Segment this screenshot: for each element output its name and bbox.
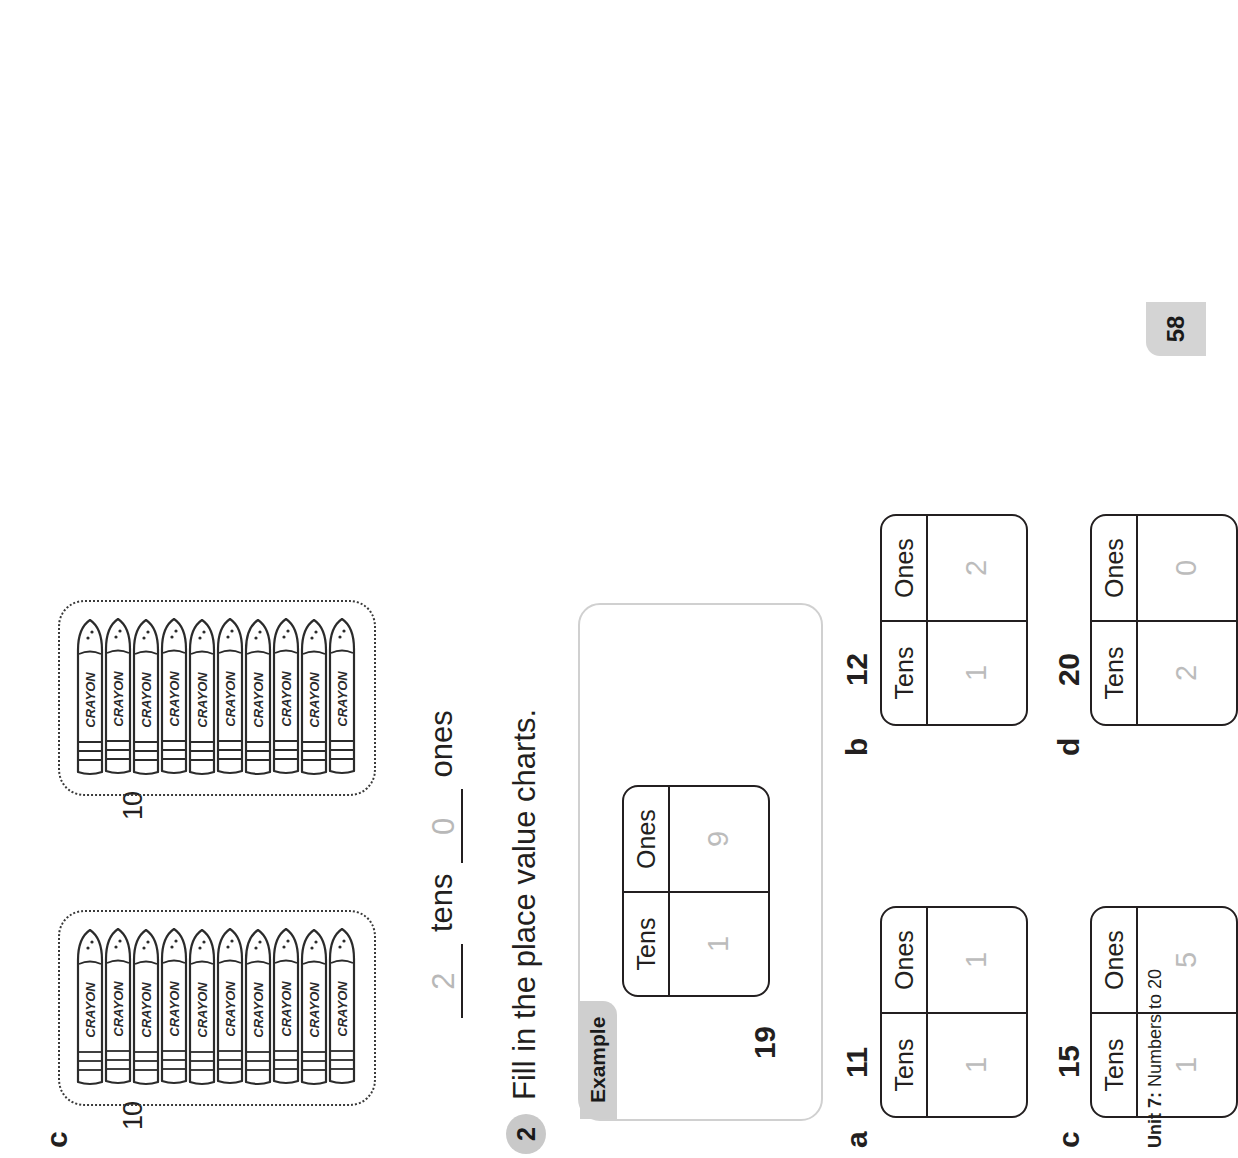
item-b-value-ones[interactable]: 2 bbox=[928, 516, 1026, 620]
question-2-instruction: Fill in the place value charts. bbox=[507, 709, 543, 1100]
svg-text:CRAYON: CRAYON bbox=[111, 981, 126, 1037]
item-d-number: 20 bbox=[1052, 654, 1086, 686]
footer-unit-prefix: Unit 7: bbox=[1145, 1092, 1165, 1148]
item-b-place-value-chart: Tens Ones 1 2 bbox=[880, 514, 1028, 726]
example-value-tens: 1 bbox=[670, 891, 768, 995]
item-c-header-ones: Ones bbox=[1092, 908, 1136, 1012]
tens-answer-blank[interactable]: 2 bbox=[428, 944, 463, 1018]
worksheet-page: c 10 CRAYONCRAYONCRAYONCRAYONCRAYONCRAYO… bbox=[0, 302, 1206, 1158]
bundle-1-count-label: 10 bbox=[118, 1102, 149, 1130]
svg-text:CRAYON: CRAYON bbox=[279, 671, 294, 727]
svg-text:CRAYON: CRAYON bbox=[167, 671, 182, 727]
item-b-header-ones: Ones bbox=[882, 516, 926, 620]
svg-text:CRAYON: CRAYON bbox=[111, 671, 126, 727]
item-d-letter: d bbox=[1052, 738, 1086, 756]
crayon-stack-1: CRAYONCRAYONCRAYONCRAYONCRAYONCRAYONCRAY… bbox=[74, 922, 366, 1088]
item-a-letter: a bbox=[840, 1131, 874, 1148]
crayon-stack-2: CRAYONCRAYONCRAYONCRAYONCRAYONCRAYONCRAY… bbox=[74, 612, 366, 778]
crayon-bundle-1: CRAYONCRAYONCRAYONCRAYONCRAYONCRAYONCRAY… bbox=[58, 910, 376, 1106]
item-b-header-row: Tens Ones bbox=[882, 516, 928, 724]
example-value-ones: 9 bbox=[670, 787, 768, 891]
tens-word-label: tens bbox=[424, 863, 460, 944]
item-b-value-row: 1 2 bbox=[928, 516, 1026, 724]
footer-unit-title: Numbers to 20 bbox=[1145, 969, 1165, 1092]
item-d-value-ones[interactable]: 0 bbox=[1138, 516, 1236, 620]
svg-text:CRAYON: CRAYON bbox=[83, 672, 98, 728]
example-chart-value-row: 1 9 bbox=[670, 787, 768, 995]
svg-text:CRAYON: CRAYON bbox=[251, 982, 266, 1038]
item-a-place-value-chart: Tens Ones 1 1 bbox=[880, 906, 1028, 1118]
item-d-header-tens: Tens bbox=[1092, 620, 1136, 724]
item-a-number: 11 bbox=[840, 1047, 874, 1078]
page-number-badge: 58 bbox=[1146, 302, 1206, 356]
svg-text:CRAYON: CRAYON bbox=[83, 982, 98, 1038]
item-d-header-ones: Ones bbox=[1092, 516, 1136, 620]
example-tab-label: Example bbox=[580, 1001, 617, 1119]
item-b-number: 12 bbox=[840, 654, 874, 686]
ones-answer-blank[interactable]: 0 bbox=[428, 789, 463, 863]
example-card: Example 19 Tens Ones 1 9 bbox=[578, 603, 823, 1121]
item-b-value-tens[interactable]: 1 bbox=[928, 620, 1026, 724]
svg-text:CRAYON: CRAYON bbox=[139, 982, 154, 1038]
example-header-ones: Ones bbox=[624, 787, 668, 891]
crayon-icon: CRAYON bbox=[326, 923, 358, 1087]
question-1c-answer-line: 2tens0ones bbox=[424, 700, 463, 1018]
svg-text:CRAYON: CRAYON bbox=[307, 982, 322, 1038]
item-a-header-row: Tens Ones bbox=[882, 908, 928, 1116]
item-d-place-value-chart: Tens Ones 2 0 bbox=[1090, 514, 1238, 726]
item-a-value-ones[interactable]: 1 bbox=[928, 908, 1026, 1012]
item-c-header-row: Tens Ones bbox=[1092, 908, 1138, 1116]
svg-text:CRAYON: CRAYON bbox=[279, 981, 294, 1037]
svg-text:CRAYON: CRAYON bbox=[335, 671, 350, 727]
question-2-number-bullet: 2 bbox=[506, 1114, 546, 1154]
item-d-value-row: 2 0 bbox=[1138, 516, 1236, 724]
ones-word-label: ones bbox=[424, 700, 460, 789]
item-c-header-tens: Tens bbox=[1092, 1012, 1136, 1116]
question-1c-letter: c bbox=[40, 1131, 74, 1148]
example-chart-header-row: Tens Ones bbox=[624, 787, 670, 995]
example-header-tens: Tens bbox=[624, 891, 668, 995]
item-a-value-row: 1 1 bbox=[928, 908, 1026, 1116]
svg-text:CRAYON: CRAYON bbox=[223, 981, 238, 1037]
item-a-header-ones: Ones bbox=[882, 908, 926, 1012]
footer-unit-label: Unit 7: Numbers to 20 bbox=[1145, 969, 1166, 1148]
svg-text:CRAYON: CRAYON bbox=[139, 672, 154, 728]
example-place-value-chart: Tens Ones 1 9 bbox=[622, 785, 770, 997]
item-d-value-tens[interactable]: 2 bbox=[1138, 620, 1236, 724]
rotated-page-wrapper: c 10 CRAYONCRAYONCRAYONCRAYONCRAYONCRAYO… bbox=[0, 302, 1206, 1158]
svg-text:CRAYON: CRAYON bbox=[195, 982, 210, 1038]
item-c-number: 15 bbox=[1052, 1046, 1086, 1078]
item-c-letter: c bbox=[1052, 1131, 1086, 1148]
svg-text:CRAYON: CRAYON bbox=[167, 981, 182, 1037]
svg-text:CRAYON: CRAYON bbox=[307, 672, 322, 728]
crayon-icon: CRAYON bbox=[326, 613, 358, 777]
item-a-header-tens: Tens bbox=[882, 1012, 926, 1116]
crayon-bundle-2: CRAYONCRAYONCRAYONCRAYONCRAYONCRAYONCRAY… bbox=[58, 600, 376, 796]
example-number: 19 bbox=[748, 1027, 782, 1059]
svg-text:CRAYON: CRAYON bbox=[195, 672, 210, 728]
svg-text:CRAYON: CRAYON bbox=[223, 671, 238, 727]
svg-text:CRAYON: CRAYON bbox=[251, 672, 266, 728]
item-d-header-row: Tens Ones bbox=[1092, 516, 1138, 724]
svg-text:CRAYON: CRAYON bbox=[335, 981, 350, 1037]
item-a-value-tens[interactable]: 1 bbox=[928, 1012, 1026, 1116]
bundle-2-count-label: 10 bbox=[118, 792, 149, 820]
item-b-letter: b bbox=[840, 738, 874, 756]
item-b-header-tens: Tens bbox=[882, 620, 926, 724]
